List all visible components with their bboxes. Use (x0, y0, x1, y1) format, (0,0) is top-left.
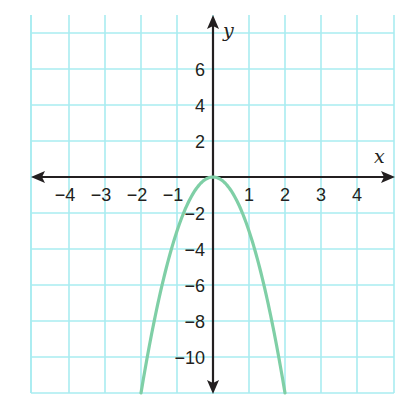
axes (31, 15, 395, 394)
y-tick-label: 2 (195, 132, 205, 152)
x-tick-label: 1 (244, 185, 254, 205)
y-tick-label: −6 (184, 276, 205, 296)
x-tick-label: 2 (280, 185, 290, 205)
y-tick-label: −4 (184, 240, 205, 260)
x-tick-label: 4 (352, 185, 362, 205)
y-tick-label: 6 (195, 60, 205, 80)
parabola-chart: −4−3−2−11234−10−8−6−4−2246 x y (0, 0, 415, 411)
y-tick-label: 4 (195, 96, 205, 116)
y-axis-label: y (222, 19, 234, 41)
y-tick-label: −8 (184, 312, 205, 332)
x-tick-label: −2 (127, 185, 148, 205)
x-tick-label: −4 (55, 185, 76, 205)
y-tick-label: −10 (174, 348, 205, 368)
x-axis-label: x (374, 145, 385, 167)
x-tick-label: −1 (163, 185, 184, 205)
x-tick-label: −3 (91, 185, 112, 205)
x-tick-label: 3 (316, 185, 326, 205)
